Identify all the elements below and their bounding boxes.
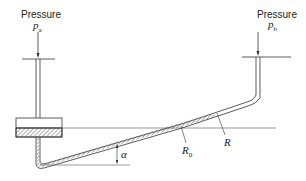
r0-label: R0	[182, 144, 192, 159]
left-pressure-arrow	[37, 32, 40, 58]
left-upper-tube	[36, 59, 40, 118]
r0-leader-line	[181, 126, 186, 143]
reservoir	[16, 118, 62, 137]
right-pressure-label: Pressure	[257, 9, 297, 20]
angle-label: α	[121, 148, 127, 160]
r-leader-line	[217, 113, 225, 135]
r0-label-base: R	[182, 144, 189, 156]
r-label: R	[224, 136, 231, 148]
right-pressure-symbol: pb	[268, 18, 277, 33]
r0-label-sub: 0	[189, 151, 193, 159]
left-pressure-symbol: pa	[33, 19, 42, 34]
inclined-tube	[36, 57, 260, 168]
left-pressure-symbol-sub: a	[39, 26, 42, 34]
right-pressure-arrow	[257, 32, 260, 56]
manometer-diagram	[0, 0, 306, 181]
right-pressure-symbol-sub: b	[274, 25, 278, 33]
